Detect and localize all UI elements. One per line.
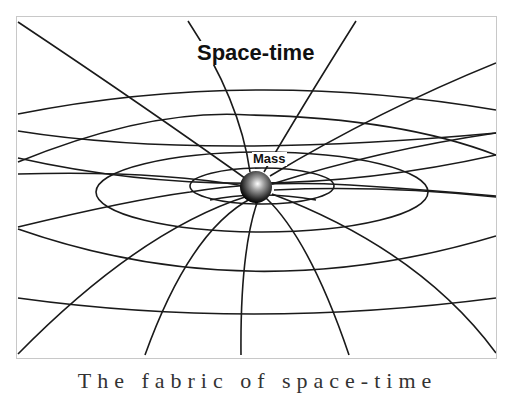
radial-6	[18, 173, 245, 186]
caption-partial: The fabric of space-time	[0, 368, 515, 394]
diagram-title: Space-time	[195, 41, 316, 65]
radial-4	[270, 63, 496, 176]
radial-9	[241, 200, 258, 355]
radial-11	[272, 194, 496, 353]
ring-6	[18, 298, 496, 314]
ring-5	[18, 229, 496, 271]
radial-7	[18, 196, 248, 354]
radial-5	[272, 133, 496, 184]
mass-sphere	[240, 171, 272, 203]
radial-8	[145, 198, 252, 355]
mass-label: Mass	[252, 152, 287, 166]
